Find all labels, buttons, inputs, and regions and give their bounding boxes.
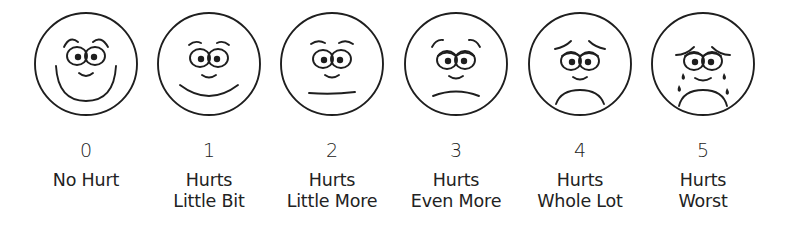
rating-label: Hurts Little More xyxy=(267,170,397,212)
rating-label: Hurts Worst xyxy=(638,170,768,212)
rating-number: 4 xyxy=(520,139,640,161)
rating-label: No Hurt xyxy=(21,170,151,191)
rating-number: 1 xyxy=(149,139,269,161)
rating-label: Hurts Even More xyxy=(391,170,521,212)
neutral-face-icon[interactable] xyxy=(279,11,385,117)
very-happy-face-icon[interactable] xyxy=(33,11,139,117)
sad-face-icon[interactable] xyxy=(527,11,633,117)
slightly-sad-face-icon[interactable] xyxy=(403,11,509,117)
crying-face-icon[interactable] xyxy=(650,11,756,117)
rating-number: 0 xyxy=(26,139,146,161)
rating-number: 2 xyxy=(272,139,392,161)
rating-number: 3 xyxy=(396,139,516,161)
rating-number: 5 xyxy=(643,139,763,161)
rating-label: Hurts Whole Lot xyxy=(515,170,645,212)
happy-face-icon[interactable] xyxy=(156,11,262,117)
rating-label: Hurts Little Bit xyxy=(144,170,274,212)
